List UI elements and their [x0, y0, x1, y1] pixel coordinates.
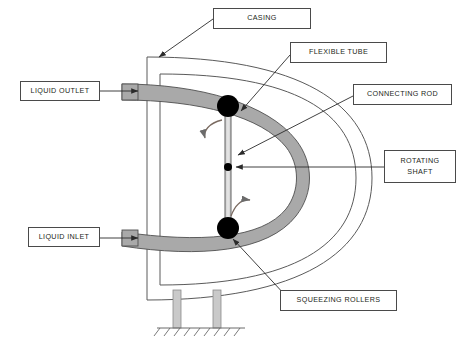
support-structure [154, 290, 245, 336]
leader-flexible-tube [241, 55, 290, 111]
label-squeezing-rollers-text: SQUEEZING ROLLERS [297, 295, 381, 305]
label-flexible-tube-text: FLEXIBLE TUBE [309, 47, 368, 57]
rotation-arrow-bottom [231, 200, 250, 216]
label-liquid-outlet[interactable]: LIQUID OUTLET [20, 81, 100, 101]
leader-casing [159, 19, 213, 57]
ground-hatching [154, 328, 240, 336]
tube-outlet-end [122, 84, 138, 100]
casing-inner-arc [160, 74, 356, 285]
squeezing-roller-bottom [217, 217, 239, 239]
support-leg-left [173, 290, 181, 328]
label-squeezing-rollers[interactable]: SQUEEZING ROLLERS [280, 290, 397, 311]
label-connecting-rod-text: CONNECTING ROD [367, 89, 438, 99]
label-rotating-shaft[interactable]: ROTATING SHAFT [384, 150, 456, 183]
label-liquid-inlet-text: LIQUID INLET [39, 232, 90, 242]
tube-body [122, 84, 310, 252]
support-leg-right [213, 290, 221, 328]
label-connecting-rod[interactable]: CONNECTING ROD [353, 84, 452, 105]
label-liquid-inlet[interactable]: LIQUID INLET [28, 227, 100, 247]
label-liquid-outlet-text: LIQUID OUTLET [31, 86, 90, 96]
rotating-shaft-hub [224, 163, 232, 171]
leader-squeezing-rollers [233, 239, 286, 296]
squeezing-roller-top [217, 95, 239, 117]
flexible-tube [122, 84, 310, 252]
label-casing-text: CASING [247, 13, 277, 23]
label-flexible-tube[interactable]: FLEXIBLE TUBE [290, 42, 387, 63]
rotation-arrow-top [205, 120, 222, 138]
diagram-canvas: CASING FLEXIBLE TUBE CONNECTING ROD ROTA… [0, 0, 458, 349]
label-rotating-shaft-text: ROTATING SHAFT [401, 156, 440, 177]
label-casing[interactable]: CASING [213, 8, 311, 29]
